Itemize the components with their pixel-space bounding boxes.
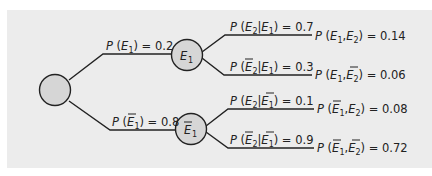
joint-label-e1-e2: P (E1,E2) = 0.14 — [315, 29, 406, 45]
svg-text:P (E1,E2) = 0.72: P (E1,E2) = 0.72 — [317, 141, 408, 157]
probability-tree: E 1 E 1 P (E1) = 0.2 P (E1) = 0.8 P (E2|… — [0, 0, 432, 176]
svg-text:E: E — [180, 49, 188, 63]
svg-text:P (E1,E2) = 0.14: P (E1,E2) = 0.14 — [315, 29, 406, 45]
joint-label-not-e1-e2: P (E1,E2) = 0.08 — [317, 101, 408, 118]
edge-label-p-not-e2-given-e1: P (E2|E1) = 0.3 — [230, 59, 313, 76]
svg-text:P (E2|E1) = 0.9: P (E2|E1) = 0.9 — [230, 133, 313, 149]
edge-label-p-not-e1: P (E1) = 0.8 — [112, 114, 179, 131]
svg-text:P (E2|E1) = 0.1: P (E2|E1) = 0.1 — [230, 94, 313, 110]
svg-text:E: E — [184, 123, 192, 137]
edge-label-p-e2-given-not-e1: P (E2|E1) = 0.1 — [230, 93, 313, 110]
edge-label-p-e2-given-e1: P (E2|E1) = 0.7 — [230, 20, 313, 36]
svg-text:P (E1) = 0.8: P (E1) = 0.8 — [112, 115, 179, 131]
edge-label-p-e1: P (E1) = 0.2 — [106, 39, 173, 55]
svg-text:1: 1 — [188, 56, 193, 65]
svg-text:P (E1,E2) = 0.06: P (E1,E2) = 0.06 — [315, 68, 406, 84]
edge-label-p-not-e2-given-not-e1: P (E2|E1) = 0.9 — [230, 132, 313, 149]
svg-text:P (E1) = 0.2: P (E1) = 0.2 — [106, 39, 173, 55]
svg-text:P (E2|E1) = 0.3: P (E2|E1) = 0.3 — [230, 60, 313, 76]
joint-label-not-e1-not-e2: P (E1,E2) = 0.72 — [317, 140, 408, 157]
svg-text:P (E1,E2) = 0.08: P (E1,E2) = 0.08 — [317, 102, 408, 118]
svg-text:1: 1 — [192, 130, 197, 139]
root-node — [40, 75, 71, 106]
joint-label-e1-not-e2: P (E1,E2) = 0.06 — [315, 67, 406, 84]
svg-text:P (E2|E1) = 0.7: P (E2|E1) = 0.7 — [230, 20, 313, 36]
edge-root-e1 — [69, 54, 172, 80]
edge-not-e1-e2 — [206, 109, 314, 126]
edge-e1-e2 — [202, 35, 312, 52]
